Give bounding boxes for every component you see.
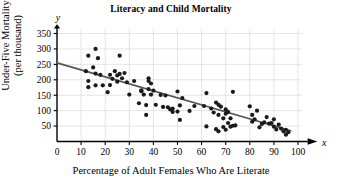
svg-text:60: 60 [197, 147, 207, 157]
data-points [84, 47, 291, 137]
svg-text:x: x [321, 137, 327, 148]
svg-text:40: 40 [149, 147, 159, 157]
svg-text:20: 20 [100, 147, 110, 157]
svg-text:200: 200 [37, 75, 52, 85]
chart-figure: Literacy and Child Mortality Under-Five … [0, 0, 342, 183]
svg-text:y: y [55, 12, 61, 23]
svg-text:90: 90 [269, 147, 279, 157]
svg-text:350: 350 [37, 29, 52, 39]
svg-text:70: 70 [221, 147, 231, 157]
svg-text:50: 50 [42, 121, 52, 131]
svg-text:30: 30 [125, 147, 135, 157]
svg-text:100: 100 [37, 106, 52, 116]
svg-text:50: 50 [173, 147, 183, 157]
svg-text:0: 0 [55, 147, 60, 157]
svg-text:10: 10 [76, 147, 86, 157]
svg-text:80: 80 [245, 147, 255, 157]
scatter-plot-canvas: 0102030405060708090100501001502002503003… [0, 0, 342, 183]
svg-text:150: 150 [37, 91, 52, 101]
svg-text:100: 100 [291, 147, 306, 157]
tick-labels: 0102030405060708090100501001502002503003… [37, 29, 306, 157]
svg-text:300: 300 [37, 44, 52, 54]
svg-text:250: 250 [37, 60, 52, 70]
